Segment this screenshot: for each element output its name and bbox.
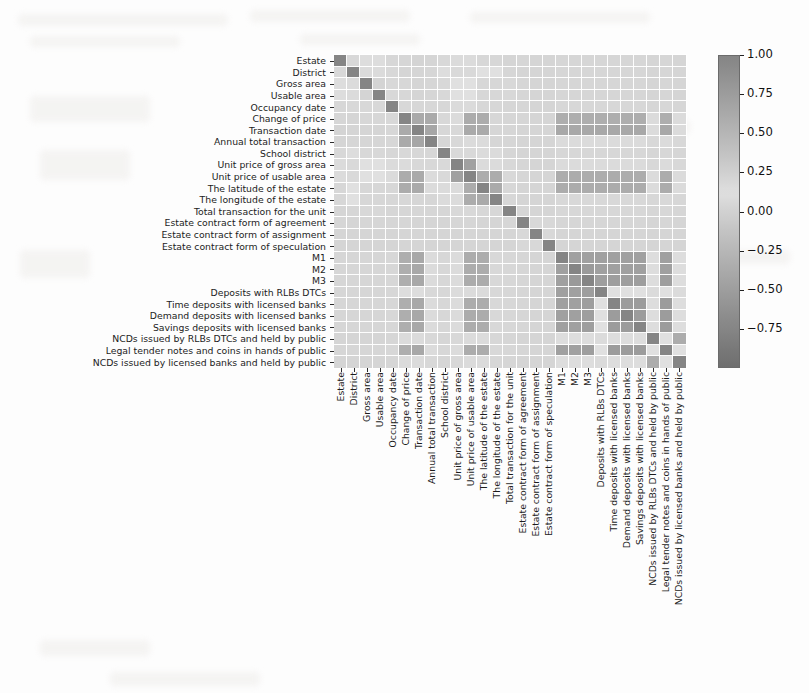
heatmap-cell bbox=[399, 356, 412, 368]
x-axis-tick-label: Total transaction for the unit bbox=[505, 372, 514, 504]
heatmap-cell bbox=[621, 171, 634, 183]
heatmap-cell bbox=[425, 113, 438, 125]
heatmap-cell bbox=[373, 252, 386, 264]
x-axis-tick bbox=[341, 368, 342, 372]
x-axis-tick-slot: NCDs issued by licensed banks and held b… bbox=[673, 372, 686, 662]
heatmap-cell bbox=[530, 333, 543, 345]
heatmap-cell bbox=[543, 55, 556, 67]
heatmap-cell bbox=[347, 101, 360, 113]
x-axis-tick-slot: Gross area bbox=[360, 372, 373, 662]
heatmap-cell bbox=[451, 206, 464, 218]
heatmap-cell bbox=[569, 183, 582, 195]
heatmap-cell bbox=[373, 298, 386, 310]
heatmap-cell bbox=[660, 229, 673, 241]
heatmap-cell bbox=[477, 298, 490, 310]
heatmap-cell bbox=[647, 55, 660, 67]
heatmap-cell bbox=[582, 67, 595, 79]
y-axis-tick bbox=[330, 281, 334, 282]
y-axis-tick bbox=[330, 200, 334, 201]
heatmap-cell bbox=[634, 275, 647, 287]
heatmap-cell bbox=[608, 310, 621, 322]
heatmap-grid[interactable] bbox=[334, 55, 686, 368]
heatmap-cell bbox=[582, 101, 595, 113]
heatmap-cell bbox=[634, 125, 647, 137]
heatmap-cell bbox=[503, 67, 516, 79]
heatmap-cell bbox=[517, 101, 530, 113]
heatmap-cell bbox=[425, 322, 438, 334]
heatmap-cell bbox=[556, 206, 569, 218]
heatmap-cell bbox=[673, 113, 686, 125]
x-axis-tick bbox=[458, 368, 459, 372]
x-axis-tick-slot: Unit price of usable area bbox=[464, 372, 477, 662]
heatmap-cell bbox=[647, 183, 660, 195]
heatmap-cell bbox=[438, 125, 451, 137]
heatmap-cell bbox=[477, 171, 490, 183]
heatmap-cell bbox=[451, 275, 464, 287]
heatmap-cell bbox=[438, 67, 451, 79]
x-axis-tick-label: NCDs issued by RLBs DTCs and held by pub… bbox=[649, 372, 658, 586]
heatmap-cell bbox=[347, 264, 360, 276]
heatmap-cell bbox=[647, 90, 660, 102]
heatmap-cell bbox=[660, 345, 673, 357]
colorbar[interactable]: 1.000.750.500.250.00−0.25−0.50−0.75 bbox=[718, 55, 740, 368]
heatmap-cell bbox=[347, 333, 360, 345]
x-axis-tick bbox=[640, 368, 641, 372]
x-axis-tick-label: Legal tender notes and coins in hands of… bbox=[662, 372, 671, 592]
heatmap-cell bbox=[490, 159, 503, 171]
heatmap-cell bbox=[503, 113, 516, 125]
heatmap-cell bbox=[621, 333, 634, 345]
heatmap-cell bbox=[595, 148, 608, 160]
heatmap-cell bbox=[399, 136, 412, 148]
heatmap-cell bbox=[334, 194, 347, 206]
y-axis-tick-label: M1 bbox=[0, 252, 330, 264]
heatmap-cell bbox=[373, 78, 386, 90]
heatmap-cell bbox=[608, 298, 621, 310]
x-axis-tick-slot: Estate contract form of agreement bbox=[516, 372, 529, 662]
heatmap-cell bbox=[517, 240, 530, 252]
y-axis-tick-label: NCDs issued by licensed banks and held b… bbox=[0, 356, 330, 368]
heatmap-cell bbox=[464, 55, 477, 67]
heatmap-cell bbox=[595, 125, 608, 137]
heatmap-cell bbox=[517, 322, 530, 334]
heatmap-cell bbox=[660, 55, 673, 67]
heatmap-cell bbox=[595, 345, 608, 357]
heatmap-cell bbox=[490, 252, 503, 264]
heatmap-cell bbox=[360, 148, 373, 160]
heatmap-cell bbox=[634, 55, 647, 67]
x-axis-tick-label: The latitude of the estate bbox=[479, 372, 488, 490]
heatmap-cell bbox=[438, 113, 451, 125]
heatmap-cell bbox=[621, 148, 634, 160]
heatmap-cell bbox=[464, 101, 477, 113]
heatmap-cell bbox=[425, 275, 438, 287]
heatmap-cell bbox=[608, 287, 621, 299]
heatmap-cell bbox=[451, 229, 464, 241]
heatmap-cell bbox=[621, 159, 634, 171]
x-axis-tick-slot: Estate contract form of speculation bbox=[543, 372, 556, 662]
heatmap-cell bbox=[347, 159, 360, 171]
heatmap-cell bbox=[556, 194, 569, 206]
x-axis-tick-slot: Total transaction for the unit bbox=[503, 372, 516, 662]
heatmap-cell bbox=[634, 78, 647, 90]
heatmap-cell bbox=[543, 148, 556, 160]
heatmap-cell bbox=[673, 217, 686, 229]
y-axis-labels: EstateDistrictGross areaUsable areaOccup… bbox=[0, 55, 330, 368]
x-axis-tick-label: Estate contract form of speculation bbox=[544, 372, 553, 536]
heatmap-cell bbox=[425, 171, 438, 183]
heatmap-cell bbox=[386, 229, 399, 241]
heatmap-cell bbox=[373, 90, 386, 102]
heatmap-cell bbox=[517, 78, 530, 90]
heatmap-cell bbox=[490, 345, 503, 357]
x-axis-tick bbox=[380, 368, 381, 372]
heatmap-cell bbox=[477, 345, 490, 357]
heatmap-cell bbox=[517, 125, 530, 137]
heatmap-cell bbox=[464, 333, 477, 345]
heatmap-cell bbox=[503, 125, 516, 137]
heatmap-cell bbox=[582, 136, 595, 148]
heatmap-cell bbox=[399, 148, 412, 160]
heatmap-cell bbox=[647, 78, 660, 90]
colorbar-tick bbox=[740, 133, 744, 134]
heatmap-cell bbox=[399, 101, 412, 113]
heatmap-cell bbox=[425, 90, 438, 102]
heatmap-cell bbox=[347, 229, 360, 241]
heatmap-cell bbox=[425, 194, 438, 206]
